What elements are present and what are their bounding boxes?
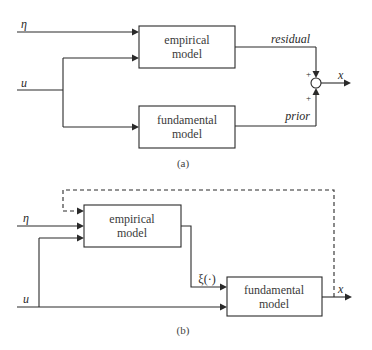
empirical-text-1-b: empirical xyxy=(109,212,155,226)
xi-label: ξ(·) xyxy=(198,272,215,286)
residual-label: residual xyxy=(271,32,311,46)
arrow-icon xyxy=(313,71,320,78)
caption-b: (b) xyxy=(177,324,190,337)
arrow-icon xyxy=(132,124,139,131)
empirical-text-1-a: empirical xyxy=(164,33,210,47)
prior-label: prior xyxy=(284,109,310,123)
arrow-icon xyxy=(220,304,227,311)
arrow-icon xyxy=(313,88,320,95)
eta-label-a: η xyxy=(21,17,27,31)
fundamental-text-2-b: model xyxy=(259,297,290,311)
eta-label-b: η xyxy=(23,211,29,225)
arrow-icon xyxy=(77,208,84,215)
fundamental-text-2-a: model xyxy=(172,127,203,141)
empirical-text-2-b: model xyxy=(117,226,148,240)
caption-a: (a) xyxy=(177,157,190,170)
diagram-b: η u empirical model ξ(·) fundamental mod… xyxy=(17,190,352,337)
hybrid-model-diagram: η u empirical model fundamental model re… xyxy=(0,0,372,350)
summing-junction xyxy=(311,78,321,88)
fundamental-text-1-b: fundamental xyxy=(244,283,305,297)
arrow-icon xyxy=(77,235,84,242)
plus-sign-top: + xyxy=(306,69,311,79)
arrow-icon xyxy=(77,223,84,230)
arrow-icon xyxy=(132,29,139,36)
empirical-text-2-a: model xyxy=(172,47,203,61)
u-label-a: u xyxy=(21,76,27,90)
fundamental-text-1-a: fundamental xyxy=(157,113,218,127)
output-label-b: x xyxy=(337,282,344,296)
u-label-b: u xyxy=(23,292,29,306)
arrow-icon xyxy=(132,55,139,62)
arrow-icon xyxy=(345,294,352,301)
diagram-a: η u empirical model fundamental model re… xyxy=(17,17,351,170)
output-label-a: x xyxy=(337,68,344,82)
arrow-icon xyxy=(220,284,227,291)
arrow-icon xyxy=(344,80,351,87)
plus-sign-bottom: + xyxy=(306,93,311,103)
